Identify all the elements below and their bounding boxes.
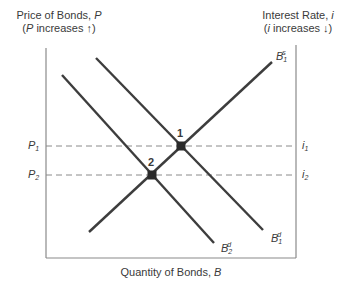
b1d-superscript: d bbox=[277, 231, 281, 238]
b1d-label: B1d bbox=[271, 228, 281, 248]
b2d-subscript: 2 bbox=[228, 248, 232, 255]
x-axis-title-text: Quantity of Bonds, bbox=[121, 266, 215, 278]
right-axis-var: i bbox=[331, 9, 333, 21]
right-axis-title-text: Interest Rate, bbox=[262, 9, 331, 21]
left-axis-var: P bbox=[94, 9, 101, 21]
b1s-label: B1s bbox=[276, 46, 286, 66]
i1-label: i1 bbox=[302, 139, 308, 155]
x-axis-title: Quantity of Bonds, B bbox=[96, 266, 246, 279]
p1-label: P1 bbox=[28, 139, 39, 155]
left-axis-note-rest: increases ↑) bbox=[33, 22, 95, 34]
b1d-subscript: 1 bbox=[278, 238, 282, 245]
b1s-subscript: 1 bbox=[283, 56, 287, 63]
b2d-label: B2d bbox=[221, 238, 231, 258]
b1s-superscript: s bbox=[282, 49, 286, 56]
x-axis-var: B bbox=[214, 266, 221, 278]
bond-market-diagram bbox=[0, 0, 344, 284]
left-axis-title: Price of Bonds, P (P increases ↑) bbox=[4, 9, 114, 35]
p2-label: P2 bbox=[28, 168, 39, 184]
right-axis-title: Interest Rate, i (i increases ↓) bbox=[252, 9, 344, 35]
p2-subscript: 2 bbox=[35, 174, 39, 181]
left-axis-title-text: Price of Bonds, bbox=[17, 9, 95, 21]
right-axis-note-rest: increases ↓) bbox=[270, 22, 332, 34]
i2-label: i2 bbox=[302, 168, 308, 184]
point-1-label: 1 bbox=[177, 127, 183, 140]
equilibrium-point-1 bbox=[177, 142, 186, 151]
p1-subscript: 1 bbox=[35, 145, 39, 152]
point-2-label: 2 bbox=[148, 156, 154, 169]
i2-subscript: 2 bbox=[304, 174, 308, 181]
b2d-superscript: d bbox=[227, 241, 231, 248]
i1-subscript: 1 bbox=[304, 145, 308, 152]
equilibrium-point-2 bbox=[148, 171, 157, 180]
